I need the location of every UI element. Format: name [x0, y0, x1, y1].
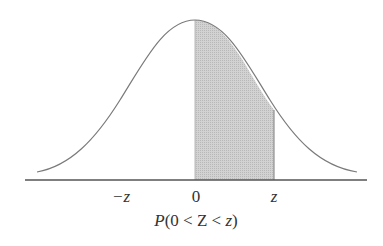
- caption-Z: Z: [197, 211, 207, 230]
- caption: P(0 < Z < z): [153, 211, 237, 230]
- caption-close: ): [232, 211, 238, 230]
- label-pos-z: z: [270, 187, 278, 206]
- caption-open: (0 <: [165, 211, 197, 230]
- normal-distribution-diagram: −z 0 z P(0 < Z < z): [0, 0, 383, 246]
- caption-lt: <: [207, 211, 225, 230]
- caption-p: P: [153, 211, 164, 230]
- label-neg-z: −z: [112, 187, 130, 206]
- shaded-area: [195, 20, 274, 180]
- label-zero: 0: [192, 187, 201, 206]
